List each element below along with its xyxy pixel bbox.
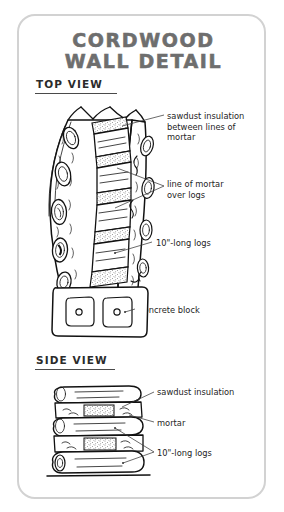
- detail-card: CORDWOOD WALL DETAIL TOP VIEW SIDE VIEW …: [17, 14, 266, 499]
- label-ten-inch-logs-side: 10"-long logs: [157, 448, 237, 459]
- leader-ten-inch-logs: [115, 242, 152, 253]
- leader-line-of-mortar-upper: [117, 168, 164, 186]
- side-log: [54, 386, 141, 403]
- side-mortar-layer: [55, 402, 142, 418]
- mortar-sawdust-band: [94, 227, 130, 244]
- leader-ten-inch-logs-side-b: [123, 452, 154, 463]
- section-heading-side-view: SIDE VIEW: [36, 354, 108, 366]
- log-top: [95, 200, 131, 232]
- leader-concrete-block: [125, 309, 135, 312]
- concrete-block: [52, 287, 148, 337]
- mortar-sawdust-band: [92, 117, 128, 134]
- side-log: [52, 451, 144, 473]
- leader-ten-inch-logs-side-a: [115, 428, 154, 452]
- mortar-sawdust-band: [96, 151, 131, 168]
- label-sawdust-insulation-side: sawdust insulation: [157, 387, 261, 398]
- leader-dot: [114, 252, 116, 254]
- leader-dot: [122, 462, 124, 464]
- side-mortar-layer: [54, 435, 143, 452]
- mortar-squiggles: [130, 156, 141, 282]
- section-heading-top-view-rule: [35, 93, 117, 94]
- top-view-artwork: [49, 107, 156, 337]
- log-top-column: [90, 117, 131, 287]
- log-top: [92, 239, 129, 272]
- concrete-block-cavity: [66, 297, 94, 326]
- ground-line: [47, 475, 150, 476]
- side-view-leaders: [114, 392, 154, 464]
- mortar-sawdust-band: [97, 188, 131, 205]
- label-mortar-side: mortar: [157, 418, 217, 429]
- log-end-ellipses-inner: [137, 135, 156, 278]
- top-view-leaders: [114, 115, 164, 313]
- section-heading-top-view: TOP VIEW: [36, 78, 103, 90]
- mortar-sawdust-band: [90, 267, 128, 287]
- side-log: [53, 417, 143, 436]
- log-end-ellipses: [51, 125, 82, 293]
- page-title-line-2: WALL DETAIL: [19, 51, 268, 72]
- wall-top-edge: [68, 107, 145, 122]
- page-title-line-1: CORDWOOD: [19, 30, 268, 51]
- section-heading-side-view-rule: [35, 369, 115, 370]
- page-title: CORDWOOD WALL DETAIL: [19, 30, 268, 72]
- concrete-block-cavity: [103, 297, 132, 327]
- log-top: [97, 162, 131, 193]
- side-view-artwork: [47, 386, 150, 476]
- label-concrete-block: concrete block: [139, 305, 231, 316]
- leader-sawdust-insulation: [122, 115, 164, 126]
- wall-mortar-texture: [56, 130, 140, 285]
- label-sawdust-insulation-top: sawdust insulation between lines of mort…: [167, 111, 265, 143]
- label-ten-inch-logs-top: 10"-long logs: [156, 238, 246, 249]
- label-line-of-mortar: line of mortar over logs: [167, 179, 263, 200]
- wall-curved-body: [49, 120, 146, 288]
- leader-sawdust-insulation-side: [122, 392, 154, 407]
- leader-mortar-side: [129, 415, 154, 422]
- screenshot-root: CORDWOOD WALL DETAIL TOP VIEW SIDE VIEW …: [0, 0, 284, 512]
- log-top: [94, 128, 130, 157]
- leader-dot: [114, 427, 116, 429]
- leader-dot: [124, 311, 126, 313]
- leader-line-of-mortar-lower: [115, 186, 164, 208]
